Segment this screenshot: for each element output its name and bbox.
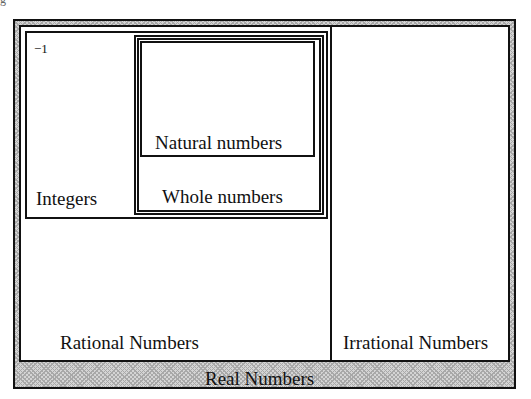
irrational-numbers-label: Irrational Numbers	[343, 333, 488, 352]
real-numbers-label: Real Numbers	[205, 369, 314, 388]
corner-mark: g	[0, 0, 6, 7]
rational-numbers-label: Rational Numbers	[60, 333, 199, 352]
integers-label: Integers	[36, 189, 97, 208]
rational-irrational-divider	[330, 25, 332, 362]
natural-numbers-label: Natural numbers	[155, 133, 282, 152]
whole-numbers-label: Whole numbers	[162, 187, 283, 206]
integer-example: −1	[34, 42, 48, 55]
